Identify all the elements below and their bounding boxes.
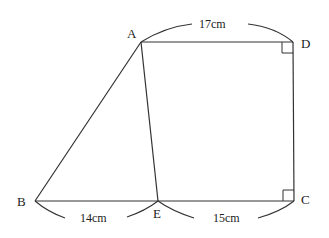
segment-ae xyxy=(141,42,158,201)
right-angle-mark-d xyxy=(282,42,293,53)
dimension-arc-ad-left xyxy=(141,24,192,42)
segment-dc xyxy=(293,42,294,201)
measurement-ec: 15cm xyxy=(213,211,240,225)
dimension-arc-be-left xyxy=(35,201,65,218)
measurement-ad: 17cm xyxy=(199,17,226,31)
vertex-label-d: D xyxy=(301,36,310,51)
right-angle-mark-c xyxy=(283,190,294,201)
dimension-arc-ad-right xyxy=(248,24,293,42)
dimension-arc-ec-right xyxy=(258,201,294,218)
geometry-diagram: A B C D E 17cm 14cm 15cm xyxy=(0,0,329,238)
vertex-label-e: E xyxy=(153,206,161,221)
segment-ba xyxy=(35,42,141,201)
vertex-label-c: C xyxy=(301,192,310,207)
measurement-be: 14cm xyxy=(80,211,107,225)
vertex-label-a: A xyxy=(127,26,137,41)
vertex-label-b: B xyxy=(17,194,26,209)
dimension-arc-ec-left xyxy=(158,201,194,218)
